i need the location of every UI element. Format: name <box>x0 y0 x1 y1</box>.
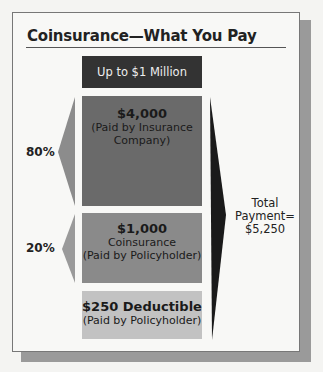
insurer-amount: $4,000 <box>82 106 202 121</box>
deductible-label: (Paid by Policyholder) <box>82 314 202 327</box>
coinsurance-box: $1,000 Coinsurance (Paid by Policyholder… <box>82 213 202 283</box>
coinsurance-amount: $1,000 <box>82 221 202 236</box>
coinsurance-label-1: Coinsurance <box>82 236 202 249</box>
total-value: $5,250 <box>230 223 300 236</box>
insurer-box: $4,000 (Paid by Insurance Company) <box>82 96 202 206</box>
arrow-total <box>210 97 226 340</box>
percent-policyholder: 20% <box>26 241 55 255</box>
insurer-label-1: (Paid by Insurance <box>82 121 202 134</box>
arrow-80-percent <box>58 97 75 206</box>
limit-box: Up to $1 Million <box>82 56 202 88</box>
deductible-amount: $250 Deductible <box>82 299 202 314</box>
coinsurance-label-2: (Paid by Policyholder) <box>82 249 202 262</box>
deductible-box: $250 Deductible (Paid by Policyholder) <box>82 291 202 339</box>
total-payment: Total Payment= $5,250 <box>230 197 300 236</box>
percent-insurer: 80% <box>26 145 55 159</box>
insurer-label-2: Company) <box>82 134 202 147</box>
arrow-20-percent <box>62 214 75 283</box>
